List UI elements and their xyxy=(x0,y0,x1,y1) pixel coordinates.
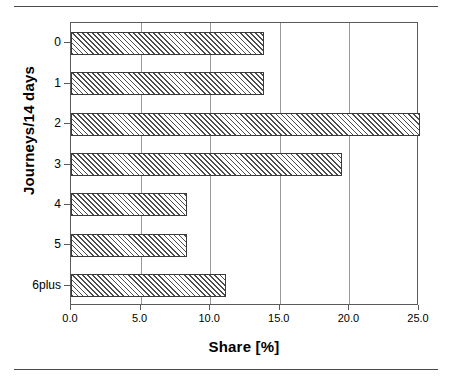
bar xyxy=(71,153,342,176)
y-axis-tick-label: 3 xyxy=(54,158,61,170)
page-rule-bottom xyxy=(14,369,438,370)
y-axis-tick-label: 1 xyxy=(54,77,61,89)
bar xyxy=(71,72,264,95)
x-axis-tick-label: 10.0 xyxy=(187,312,231,324)
y-axis-tick-label: 5 xyxy=(54,238,61,250)
chart-figure: Journeys/14 days 0123456plus 0.05.010.01… xyxy=(0,0,452,381)
bar xyxy=(71,113,420,136)
x-axis-tick xyxy=(140,305,141,310)
plot-area xyxy=(70,22,418,305)
x-axis-tick-label: 25.0 xyxy=(396,312,440,324)
x-axis-tick xyxy=(70,305,71,310)
x-axis-tick-label: 15.0 xyxy=(257,312,301,324)
y-axis-tick-label: 2 xyxy=(54,117,61,129)
bars-layer xyxy=(71,23,417,304)
x-axis-tick xyxy=(348,305,349,310)
bar xyxy=(71,193,187,216)
x-axis-tick-label: 0.0 xyxy=(48,312,92,324)
y-axis-tick-label: 6plus xyxy=(32,279,61,291)
x-axis-tick xyxy=(279,305,280,310)
y-axis-tick-label: 0 xyxy=(54,36,61,48)
x-axis-tick-label: 5.0 xyxy=(118,312,162,324)
x-axis-title: Share [%] xyxy=(70,338,418,355)
bar xyxy=(71,234,187,257)
page-rule-top xyxy=(14,6,438,7)
bar xyxy=(71,32,264,55)
bar xyxy=(71,274,226,297)
x-axis-tick xyxy=(209,305,210,310)
y-axis-ticks: 0123456plus xyxy=(0,22,70,305)
x-axis-tick xyxy=(418,305,419,310)
y-axis-tick-label: 4 xyxy=(54,198,61,210)
x-axis-tick-label: 20.0 xyxy=(326,312,370,324)
